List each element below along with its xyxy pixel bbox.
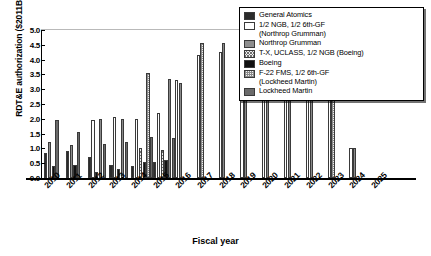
legend-item[interactable]: Lockheed Martin: [244, 87, 419, 96]
y-tick-label: 2.5: [18, 100, 40, 109]
bar-chart: RDT&E authorization ($2011B) 0.00.51.01.…: [0, 0, 431, 256]
bar: [222, 43, 225, 178]
bar: [168, 79, 171, 178]
bar: [328, 98, 331, 178]
legend-label: T-X, UCLASS, 1/2 NGB (Boeing): [259, 49, 364, 58]
bar: [44, 153, 47, 178]
y-tick-mark: [41, 178, 45, 179]
bar: [197, 55, 200, 178]
bar-group: [131, 30, 153, 178]
y-tick-mark: [41, 74, 45, 75]
legend-label: General Atomics: [259, 11, 312, 20]
legend-item[interactable]: Boeing: [244, 59, 419, 68]
legend-label: Northrop Grumman: [259, 39, 321, 48]
y-tick-mark: [41, 104, 45, 105]
bar: [146, 73, 149, 178]
bar: [200, 43, 203, 178]
y-tick-mark: [41, 60, 45, 61]
legend-label: Lockheed Martin: [259, 87, 312, 96]
bar: [288, 98, 291, 178]
bar-group: [88, 30, 110, 178]
legend-swatch: [244, 60, 255, 68]
legend-swatch: [244, 50, 255, 58]
y-tick-mark: [41, 89, 45, 90]
bar-group: [175, 30, 197, 178]
legend-item[interactable]: Northrop Grumman: [244, 39, 419, 48]
legend-item[interactable]: T-X, UCLASS, 1/2 NGB (Boeing): [244, 49, 419, 58]
legend-swatch: [244, 12, 255, 20]
legend-swatch: [244, 22, 255, 30]
y-tick-label: 2.0: [18, 114, 40, 123]
bar: [135, 119, 138, 178]
y-tick-mark: [41, 134, 45, 135]
legend-label-line2: (Lockheed Martin): [259, 78, 329, 87]
y-tick-label: 5.0: [18, 26, 40, 35]
y-tick-label: 4.0: [18, 55, 40, 64]
bar: [306, 98, 309, 178]
legend-item[interactable]: 1/2 NGB, 1/2 6th-GF(Northrop Grumman): [244, 21, 419, 38]
y-tick-label: 3.0: [18, 85, 40, 94]
y-tick-mark: [41, 148, 45, 149]
y-axis-tick-labels: 0.00.51.01.52.02.53.03.54.04.55.0: [18, 30, 40, 178]
bar: [179, 83, 182, 178]
bar: [175, 80, 178, 178]
bar: [103, 144, 106, 178]
y-tick-mark: [41, 30, 45, 31]
legend-swatch: [244, 40, 255, 48]
y-tick-mark: [41, 119, 45, 120]
bar: [121, 119, 124, 178]
bar: [99, 119, 102, 178]
legend-swatch: [244, 70, 255, 78]
y-tick-label: 3.5: [18, 70, 40, 79]
bar: [153, 162, 156, 178]
legend-swatch: [244, 88, 255, 96]
legend-item[interactable]: General Atomics: [244, 11, 419, 20]
legend-label-line2: (Northrop Grumman): [259, 30, 326, 39]
bar: [91, 120, 94, 178]
bar-group: [109, 30, 131, 178]
y-tick-label: 0.5: [18, 159, 40, 168]
bar: [113, 117, 116, 178]
legend-item[interactable]: F-22 FMS, 1/2 6th-GF(Lockheed Martin): [244, 69, 419, 86]
bar: [219, 52, 222, 178]
bar-group: [44, 30, 66, 178]
bar: [125, 142, 128, 178]
y-tick-mark: [41, 45, 45, 46]
y-tick-label: 1.5: [18, 129, 40, 138]
bar-group: [219, 30, 241, 178]
legend-label: Boeing: [259, 59, 281, 68]
bar-group: [153, 30, 175, 178]
bar: [88, 157, 91, 178]
bar-group: [66, 30, 88, 178]
bar: [310, 98, 313, 178]
y-tick-label: 1.0: [18, 144, 40, 153]
bar: [66, 151, 69, 178]
y-tick-label: 4.5: [18, 40, 40, 49]
legend-label: F-22 FMS, 1/2 6th-GF(Lockheed Martin): [259, 69, 329, 86]
bar-group: [197, 30, 219, 178]
legend-label: 1/2 NGB, 1/2 6th-GF(Northrop Grumman): [259, 21, 326, 38]
bar: [55, 120, 58, 178]
bar: [349, 148, 352, 178]
bar: [331, 98, 334, 178]
legend: General Atomics1/2 NGB, 1/2 6th-GF(North…: [239, 7, 424, 101]
bar: [157, 113, 160, 178]
x-axis-title: Fiscal year: [0, 236, 431, 246]
y-tick-mark: [41, 163, 45, 164]
